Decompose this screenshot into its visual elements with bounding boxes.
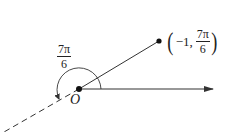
point-r: −1, bbox=[176, 34, 193, 50]
point-theta: 7π 6 bbox=[196, 28, 210, 55]
polar-diagram bbox=[0, 0, 234, 132]
point-label: ( −1, 7π 6 ) bbox=[166, 28, 219, 55]
angle-label: 7π 6 bbox=[57, 39, 71, 70]
origin-label: O bbox=[70, 92, 80, 108]
point-dot bbox=[156, 38, 161, 43]
close-paren: ) bbox=[211, 29, 217, 55]
dashed-extension bbox=[4, 89, 79, 132]
open-paren: ( bbox=[167, 29, 173, 55]
angle-numerator: 7π bbox=[57, 43, 71, 57]
theta-denominator: 6 bbox=[200, 42, 206, 55]
ray-to-point bbox=[79, 41, 159, 89]
theta-numerator: 7π bbox=[196, 28, 210, 42]
angle-denominator: 6 bbox=[61, 57, 67, 70]
